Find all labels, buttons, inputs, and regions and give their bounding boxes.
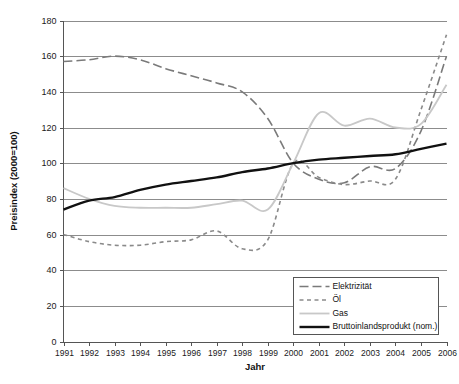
x-tick-label: 1997 bbox=[208, 348, 227, 358]
y-tick-label: 60 bbox=[46, 230, 56, 240]
x-tick-label: 1992 bbox=[80, 348, 99, 358]
x-tick-label: 1998 bbox=[233, 348, 252, 358]
y-tick-label: 40 bbox=[46, 265, 56, 275]
x-tick-label: 2001 bbox=[310, 348, 329, 358]
x-axis-title: Jahr bbox=[245, 361, 265, 372]
chart-container: 020406080100120140160180 199119921993199… bbox=[0, 0, 459, 384]
x-tick-label: 1994 bbox=[131, 348, 150, 358]
x-tick-label: 1999 bbox=[259, 348, 278, 358]
x-tick-label: 2006 bbox=[438, 348, 457, 358]
x-tick-label: 1991 bbox=[55, 348, 74, 358]
legend-label: Öl bbox=[333, 294, 342, 304]
x-tick-label: 2000 bbox=[284, 348, 303, 358]
y-tick-labels-group: 020406080100120140160180 bbox=[41, 16, 56, 347]
gridlines-group bbox=[64, 22, 447, 307]
y-tick-label: 0 bbox=[51, 337, 56, 347]
y-tick-label: 160 bbox=[41, 51, 56, 61]
x-tick-label: 2003 bbox=[361, 348, 380, 358]
x-tick-label: 1996 bbox=[182, 348, 201, 358]
x-tick-label: 2005 bbox=[412, 348, 431, 358]
x-tick-label: 1995 bbox=[157, 348, 176, 358]
data-series-group bbox=[64, 35, 447, 251]
y-tick-label: 20 bbox=[46, 301, 56, 311]
y-tick-label: 100 bbox=[41, 158, 56, 168]
legend-label: Gas bbox=[333, 308, 349, 318]
x-tick-labels-group: 1991199219931994199519961997199819992000… bbox=[55, 348, 457, 358]
y-tick-label: 120 bbox=[41, 123, 56, 133]
y-axis-title: Preisindex (2000=100) bbox=[8, 131, 19, 231]
x-tick-label: 1993 bbox=[106, 348, 125, 358]
x-tick-label: 2002 bbox=[335, 348, 354, 358]
legend-label: Elektrizität bbox=[333, 281, 373, 291]
y-tick-label: 180 bbox=[41, 16, 56, 26]
legend-label: Bruttoinlandsprodukt (nom.) bbox=[333, 321, 438, 331]
series-line-l bbox=[64, 35, 447, 251]
x-tick-label: 2004 bbox=[386, 348, 405, 358]
chart-legend: ElektrizitätÖlGasBruttoinlandsprodukt (n… bbox=[294, 278, 439, 335]
y-tick-label: 140 bbox=[41, 87, 56, 97]
y-tick-label: 80 bbox=[46, 194, 56, 204]
series-line-elektrizit-t bbox=[64, 56, 447, 183]
price-index-line-chart: 020406080100120140160180 199119921993199… bbox=[0, 0, 459, 384]
